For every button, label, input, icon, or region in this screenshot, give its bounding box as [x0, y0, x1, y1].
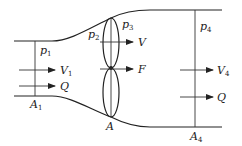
label-f: F — [137, 63, 146, 76]
label-q-in: Q — [60, 80, 69, 93]
label-a1: A1 — [29, 98, 42, 112]
label-p4: p4 — [200, 20, 212, 34]
diagram-svg: p1 p2 p3 p4 V1 Q V F V4 Q A1 A A4 — [0, 0, 242, 146]
label-q-out: Q — [217, 91, 226, 104]
label-v1: V1 — [60, 64, 72, 78]
label-a: A — [105, 120, 114, 133]
label-p1: p1 — [40, 44, 52, 58]
propeller-flow-diagram: p1 p2 p3 p4 V1 Q V F V4 Q A1 A A4 — [0, 0, 242, 146]
label-a4: A4 — [189, 130, 203, 144]
label-v: V — [138, 36, 147, 49]
label-p3: p3 — [122, 18, 134, 32]
label-v4: V4 — [217, 64, 230, 78]
label-p2: p2 — [88, 28, 100, 42]
streamtube-upper-boundary — [14, 10, 222, 41]
